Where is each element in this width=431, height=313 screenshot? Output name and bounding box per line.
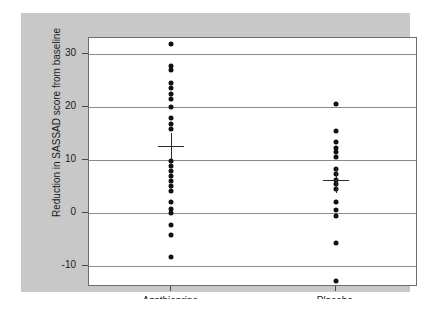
x-tick-mark (335, 286, 336, 291)
y-tick-mark (82, 212, 88, 213)
data-point (169, 80, 174, 85)
y-tick-label-3: 0 (52, 207, 76, 217)
y-tick-label-2: 10 (52, 154, 76, 164)
data-point (169, 199, 174, 204)
data-point (333, 200, 338, 205)
gridline (89, 54, 416, 55)
data-point (333, 208, 338, 213)
gridline (89, 213, 416, 214)
gridline (89, 160, 416, 161)
data-point (333, 140, 338, 145)
data-point (169, 188, 174, 193)
data-point (333, 240, 338, 245)
data-point (169, 210, 174, 215)
data-point (333, 278, 338, 283)
data-point (169, 233, 174, 238)
data-point (169, 115, 174, 120)
data-point (333, 128, 338, 133)
data-point (169, 68, 174, 73)
data-point (333, 102, 338, 107)
chart-panel: Reduction in SASSAD score from baseline … (21, 13, 410, 292)
data-point (169, 104, 174, 109)
gridline (89, 266, 416, 267)
data-point (169, 173, 174, 178)
data-point (169, 158, 174, 163)
y-tick-label-4: -10 (52, 260, 76, 270)
data-point (169, 96, 174, 101)
mean-marker-placebo (323, 167, 349, 193)
x-tick-mark (170, 286, 171, 291)
mean-marker-azathioprine (158, 133, 184, 159)
data-point (169, 222, 174, 227)
mean-vertical-bar (336, 167, 337, 193)
y-tick-mark (82, 265, 88, 266)
data-point (333, 213, 338, 218)
y-tick-label-0: 30 (52, 48, 76, 58)
gridline (89, 107, 416, 108)
y-tick-mark (82, 106, 88, 107)
plot-area (88, 37, 417, 286)
figure-container: Reduction in SASSAD score from baseline … (0, 0, 431, 313)
y-tick-mark (82, 159, 88, 160)
data-point (169, 121, 174, 126)
y-tick-label-1: 20 (52, 101, 76, 111)
caption-strip (0, 299, 431, 313)
data-point (169, 127, 174, 132)
data-point (169, 86, 174, 91)
data-point (169, 42, 174, 47)
y-tick-mark (82, 53, 88, 54)
data-point (169, 254, 174, 259)
data-point (333, 155, 338, 160)
mean-vertical-bar (171, 133, 172, 159)
